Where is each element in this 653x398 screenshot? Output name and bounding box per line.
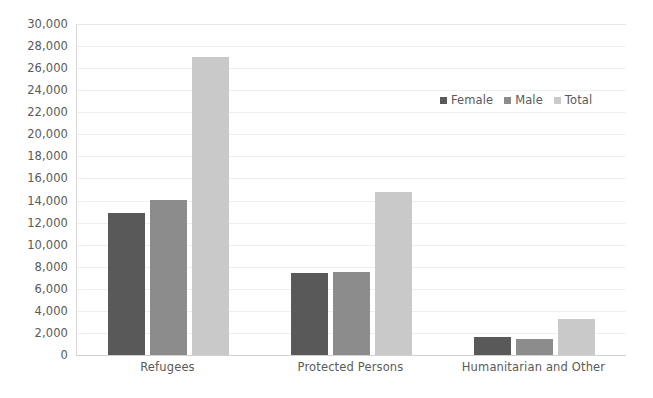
x-axis-category-label: Protected Persons <box>298 360 404 374</box>
plot-area <box>76 24 626 356</box>
y-axis-tick-label: 12,000 <box>27 216 68 230</box>
bar <box>333 272 370 355</box>
y-axis-tick-label: 18,000 <box>27 149 68 163</box>
legend-label: Female <box>451 93 493 107</box>
bar <box>375 192 412 355</box>
bar <box>192 57 229 355</box>
y-axis-tick-label: 8,000 <box>35 260 68 274</box>
bars-layer <box>77 24 626 355</box>
bar <box>516 339 553 355</box>
y-axis-tick-label: 0 <box>61 348 68 362</box>
chart-legend: FemaleMaleTotal <box>440 93 592 107</box>
y-axis-tick-label: 4,000 <box>35 304 68 318</box>
legend-item[interactable]: Total <box>554 93 592 107</box>
bar <box>150 200 187 355</box>
x-axis-category-label: Humanitarian and Other <box>462 360 605 374</box>
y-axis-tick-label: 2,000 <box>35 326 68 340</box>
y-axis-tick-label: 16,000 <box>27 171 68 185</box>
bar-chart: 30,00028,00026,00024,00022,00020,00018,0… <box>0 0 653 398</box>
y-axis-tick-label: 14,000 <box>27 194 68 208</box>
y-axis-tick-label: 20,000 <box>27 127 68 141</box>
y-axis-tick-label: 6,000 <box>35 282 68 296</box>
x-axis-category-label: Refugees <box>140 360 195 374</box>
legend-swatch-icon <box>504 97 511 104</box>
bar <box>474 337 511 355</box>
y-axis-tick-label: 22,000 <box>27 105 68 119</box>
bar <box>558 319 595 355</box>
legend-item[interactable]: Male <box>504 93 543 107</box>
y-axis-tick-label: 24,000 <box>27 83 68 97</box>
legend-item[interactable]: Female <box>440 93 493 107</box>
bar <box>291 273 328 355</box>
x-axis: RefugeesProtected PersonsHumanitarian an… <box>76 360 625 384</box>
legend-swatch-icon <box>440 97 447 104</box>
y-axis: 30,00028,00026,00024,00022,00020,00018,0… <box>0 0 72 398</box>
legend-label: Male <box>515 93 543 107</box>
legend-swatch-icon <box>554 97 561 104</box>
y-axis-tick-label: 28,000 <box>27 39 68 53</box>
bar <box>108 213 145 355</box>
y-axis-tick-label: 30,000 <box>27 17 68 31</box>
y-axis-tick-label: 10,000 <box>27 238 68 252</box>
y-axis-tick-label: 26,000 <box>27 61 68 75</box>
legend-label: Total <box>565 93 592 107</box>
